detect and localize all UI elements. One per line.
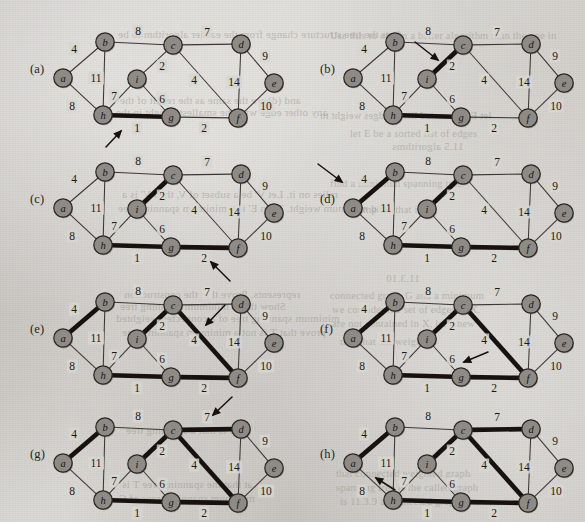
graph-g: abcdefghi48811724914102167 [8,393,293,522]
edge-weight-gh: 1 [424,252,430,264]
panel-label-c: (c) [30,192,44,207]
node-a: a [344,454,363,474]
edge-fg-selected [179,247,231,248]
node-h: h [94,106,113,126]
node-label-e: e [272,78,277,89]
edge-weight-bh: 11 [90,202,101,214]
edge-gh-selected [401,245,454,247]
edge-weight-gi: 6 [449,478,455,490]
node-f: f [519,109,538,129]
edge-bc [113,42,166,44]
node-label-e: e [562,208,567,219]
node-label-i: i [136,334,139,345]
node-g: g [162,238,181,257]
node-label-i: i [136,74,139,85]
edge-weight-cd: 7 [494,286,500,298]
node-g: g [162,108,181,128]
node-b: b [96,163,115,182]
node-label-d: d [238,424,244,435]
pointer-arrow [415,42,438,60]
edge-weight-ci: 2 [159,190,165,202]
edge-weight-gh: 1 [424,507,430,519]
edge-weight-gh: 1 [134,252,140,264]
node-label-g: g [458,497,463,508]
pointer-arrow [213,397,232,415]
edge-weight-de: 9 [262,50,268,62]
edge-weight-df: 14 [228,461,240,473]
edge-weight-ah: 8 [69,100,75,112]
edge-weight-cf: 4 [481,204,487,216]
node-label-i: i [426,459,429,470]
panel-d: (d)abcdefghi48811724914102167 [298,138,583,270]
edge-bc [403,427,456,429]
edge-weight-de: 9 [262,180,268,192]
node-a: a [344,329,363,349]
edge-weight-ah: 8 [69,360,75,372]
node-label-g: g [458,242,463,253]
node-i: i [418,200,437,219]
graph-f: abcdefghi48811724914102167 [298,268,583,400]
node-b: b [386,163,405,182]
node-label-h: h [100,495,105,506]
node-label-c: c [461,40,466,51]
pointer-arrow [318,164,342,182]
panel-h: (h)abcdefghi48811724914102167 [298,393,583,522]
edge-weight-ah: 8 [359,485,365,497]
node-label-b: b [102,37,107,48]
edge-weight-gi: 6 [159,478,165,490]
node-i: i [128,455,147,475]
edge-cd [471,304,524,305]
node-label-e: e [562,463,567,474]
node-f: f [229,109,248,129]
edge-weight-bc: 8 [135,25,141,37]
edge-weight-cf: 4 [191,74,197,86]
edge-weight-cd: 7 [204,286,210,298]
edge-weight-bc: 8 [425,410,431,422]
node-label-e: e [272,208,277,219]
edge-weight-ah: 8 [69,230,75,242]
node-label-c: c [461,300,466,311]
edge-weight-bh: 11 [380,202,391,214]
node-d: d [522,295,541,315]
edge-weight-fg: 2 [201,252,207,264]
edge-weight-ab: 4 [71,173,77,185]
node-c: c [454,166,473,185]
edge-weight-cd: 7 [204,26,210,38]
edge-weight-ci: 2 [449,445,455,457]
edge-weight-bh: 11 [380,332,391,344]
node-label-d: d [238,39,244,50]
node-label-g: g [458,372,463,383]
node-e: e [555,334,574,354]
edge-weight-bh: 11 [380,457,391,469]
node-d: d [232,295,251,315]
node-g: g [452,238,471,257]
node-label-a: a [60,458,65,469]
node-a: a [54,454,73,474]
edge-weight-ef: 10 [550,230,562,242]
edge-weight-gi: 6 [449,223,455,235]
edge-weight-gi: 6 [159,353,165,365]
node-b: b [386,293,405,313]
node-label-a: a [350,458,355,469]
node-label-g: g [458,112,463,123]
edge-weight-gh: 1 [134,122,140,134]
edge-weight-hi: 7 [401,350,407,362]
edge-gh-selected [111,375,164,377]
node-g: g [162,493,181,513]
edge-weight-hi: 7 [111,220,117,232]
node-label-h: h [390,495,395,506]
edge-fg-selected [469,377,521,378]
edge-weight-bh: 11 [90,332,101,344]
node-a: a [344,199,363,218]
edge-gh-selected [401,375,454,377]
node-h: h [94,491,113,511]
node-label-a: a [60,333,65,344]
edge-fg-selected [179,502,231,503]
edge-cd [181,174,234,175]
edge-weight-hi: 7 [401,475,407,487]
edge-weight-fg: 2 [491,507,497,519]
panel-c: (c)abcdefghi48811724914102167 [8,138,293,270]
edge-weight-fg: 2 [201,122,207,134]
node-e: e [265,459,284,479]
panel-label-e: (e) [30,322,44,337]
